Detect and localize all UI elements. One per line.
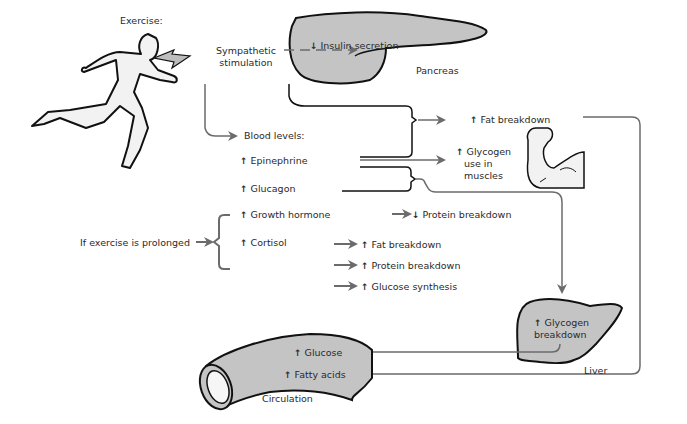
glycogen-use-line-2: use in bbox=[456, 158, 511, 170]
liver-effect-line-1: Glycogen bbox=[534, 317, 589, 329]
sympathetic-line-2: stimulation bbox=[216, 57, 276, 69]
glycogen-use-label: Glycogen use in muscles bbox=[456, 146, 511, 182]
hormone-epinephrine: Epinephrine bbox=[240, 155, 308, 167]
cortisol-glucose-synthesis: Glucose synthesis bbox=[361, 281, 457, 293]
fat-breakdown-muscle: Fat breakdown bbox=[470, 114, 550, 126]
sympathetic-label: Sympathetic stimulation bbox=[216, 45, 276, 69]
exercise-arrow-icon bbox=[154, 50, 190, 68]
insulin-secretion-label: Insulin secretion bbox=[310, 40, 398, 52]
circulation-glucose: Glucose bbox=[294, 347, 342, 359]
glycogen-use-line-3: muscles bbox=[456, 170, 511, 182]
liver-glycogen-breakdown: Glycogen breakdown bbox=[534, 317, 589, 341]
glycogen-use-line-1: Glycogen bbox=[456, 146, 511, 158]
cortisol-fat-breakdown: Fat breakdown bbox=[361, 239, 441, 251]
blood-levels-label: Blood levels: bbox=[244, 130, 305, 142]
prolonged-label: If exercise is prolonged bbox=[80, 237, 190, 249]
hormone-growth-hormone: Growth hormone bbox=[240, 209, 330, 221]
hormone-cortisol: Cortisol bbox=[240, 237, 287, 249]
liver-effect-line-2: breakdown bbox=[534, 329, 589, 341]
sympathetic-line-1: Sympathetic bbox=[216, 45, 276, 57]
diagram-canvas bbox=[0, 0, 687, 424]
pancreas-label: Pancreas bbox=[416, 65, 459, 77]
circulation-label: Circulation bbox=[262, 393, 313, 405]
runner-figure-icon bbox=[32, 34, 177, 168]
circulation-fatty-acids: Fatty acids bbox=[284, 369, 346, 381]
cortisol-protein-breakdown: Protein breakdown bbox=[361, 260, 460, 272]
growth-hormone-protein-breakdown: Protein breakdown bbox=[412, 209, 511, 221]
hormone-glucagon: Glucagon bbox=[240, 183, 295, 195]
exercise-title: Exercise: bbox=[120, 15, 163, 27]
flexed-arm-icon bbox=[527, 128, 584, 188]
liver-label: Liver bbox=[584, 365, 607, 377]
